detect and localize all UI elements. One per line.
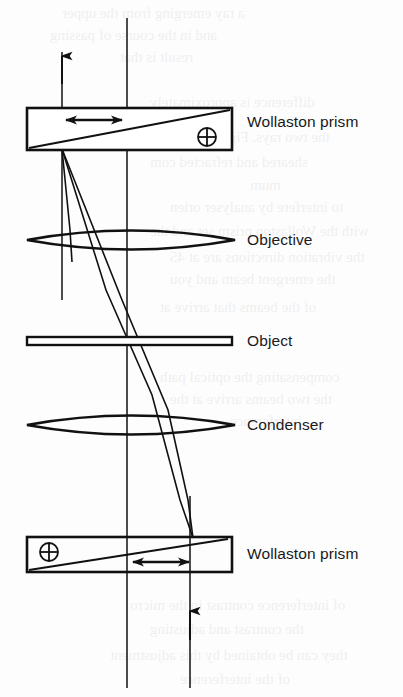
objective-lens[interactable] — [27, 231, 235, 250]
object-slide[interactable] — [27, 337, 232, 345]
optical-ray-diagram — [0, 0, 403, 697]
figure-container: a ray emerging from the upperand in the … — [0, 0, 403, 697]
label-object: Object — [247, 333, 292, 349]
optic-axis-symbol-top — [198, 128, 216, 146]
specimen-body — [27, 337, 232, 345]
label-wollaston-prism-top: Wollaston prism — [247, 114, 358, 130]
label-condenser: Condenser — [247, 417, 324, 433]
wollaston-prism-bottom[interactable] — [27, 537, 232, 572]
lens-body-condenser — [27, 416, 235, 435]
condenser-lens[interactable] — [27, 416, 235, 435]
label-wollaston-prism-bottom: Wollaston prism — [247, 546, 358, 562]
optic-axis-symbol-bottom — [40, 543, 58, 561]
label-objective: Objective — [247, 232, 313, 248]
wollaston-prism-top[interactable] — [27, 108, 232, 150]
lens-body-objective — [27, 231, 235, 250]
